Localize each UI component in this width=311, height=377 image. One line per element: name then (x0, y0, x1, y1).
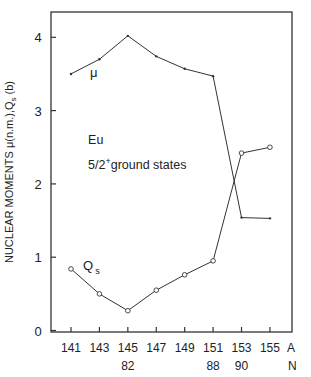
x-tick-label: 141 (61, 341, 81, 355)
n-tick-label: 90 (235, 359, 249, 373)
series-label-qs: Qs (83, 258, 100, 276)
x-tick-label: 145 (118, 341, 138, 355)
x-axis-ticks: 141143145147149151153155828890 (61, 327, 280, 373)
x-tick-label: 147 (146, 341, 166, 355)
data-point (212, 75, 214, 77)
y-tick-label: 1 (34, 250, 41, 265)
data-point (69, 267, 74, 272)
state-label: 5/2+ground states (88, 156, 186, 172)
series-line-μ (71, 36, 270, 219)
data-point (155, 55, 157, 57)
n-tick-label: 82 (121, 359, 135, 373)
annotations: μQsEu5/2+ground states (83, 65, 186, 276)
data-point (154, 288, 159, 293)
y-tick-label: 0 (34, 324, 41, 339)
nuclear-moments-chart: 01234 141143145147149151153155828890 μQs… (0, 0, 311, 377)
n-tick-label: 88 (206, 359, 220, 373)
data-point (269, 217, 271, 219)
x-tick-label: 149 (175, 341, 195, 355)
data-point (239, 151, 244, 156)
data-point (211, 259, 216, 264)
y-tick-label: 4 (34, 30, 41, 45)
data-point (98, 58, 100, 60)
x-axis-label-N: N (288, 359, 297, 373)
series-label-mu: μ (90, 65, 98, 80)
data-point (97, 292, 102, 297)
data-point (183, 68, 185, 70)
data-point (126, 308, 131, 313)
x-tick-label: 153 (232, 341, 252, 355)
y-axis-label: NUCLEAR MOMENTS μ(n.m.),Qs(b) (3, 81, 18, 263)
y-axis-ticks: 01234 (34, 30, 56, 338)
y-tick-label: 2 (34, 177, 41, 192)
data-point (240, 216, 242, 218)
x-tick-label: 151 (203, 341, 223, 355)
data-point (182, 272, 187, 277)
y-tick-label: 3 (34, 104, 41, 119)
data-point (70, 73, 72, 75)
data-point (127, 35, 129, 37)
x-tick-label: 143 (89, 341, 109, 355)
data-point (268, 145, 273, 150)
x-tick-label: 155 (260, 341, 280, 355)
element-label: Eu (88, 133, 103, 147)
x-axis-label-A: A (287, 341, 295, 355)
